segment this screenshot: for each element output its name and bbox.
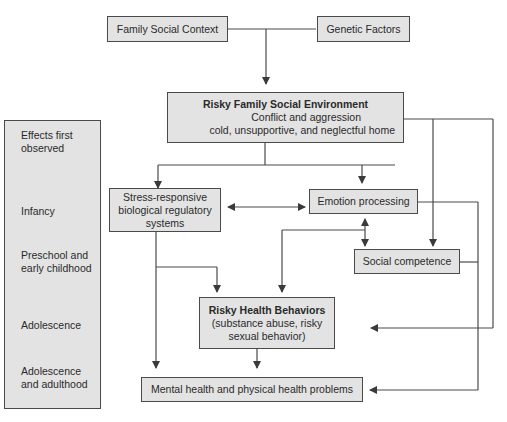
node-line: Conflict and aggression [251,111,361,124]
node-label: Family Social Context [117,23,219,36]
node-family-social-context: Family Social Context [107,16,228,42]
node-title: Risky Family Social Environment [203,98,368,111]
node-risky-family-environment: Risky Family Social Environment Conflict… [167,92,404,143]
timeline-stage: Adolescence [21,319,101,332]
node-label: Social competence [363,255,452,268]
node-label: Genetic Factors [326,23,400,36]
timeline-stage: Infancy [21,205,101,218]
timeline-stage: Adolescence and adulthood [21,365,101,391]
node-label: Mental health and physical health proble… [151,383,353,396]
node-title: Risky Health Behaviors [209,304,326,317]
node-label: Emotion processing [317,195,409,208]
node-emotion-processing: Emotion processing [309,189,418,214]
timeline-header: Effects first observed [21,129,101,155]
node-stress-responsive: Stress-responsive biological regulatory … [109,188,221,232]
node-line: biological regulatory [118,204,211,217]
node-health-problems: Mental health and physical health proble… [141,377,363,402]
node-risky-health-behaviors: Risky Health Behaviors (substance abuse,… [199,297,335,349]
node-social-competence: Social competence [354,249,460,274]
node-line: sexual behavior) [228,330,305,343]
node-line: Stress-responsive [123,191,207,204]
node-genetic-factors: Genetic Factors [317,16,410,42]
node-line: cold, unsupportive, and neglectful home [209,124,395,137]
timeline-panel: Effects first observed Infancy Preschool… [4,120,101,409]
node-line: (substance abuse, risky [212,317,322,330]
timeline-stage: Preschool and early childhood [21,249,101,275]
node-line: systems [146,217,185,230]
